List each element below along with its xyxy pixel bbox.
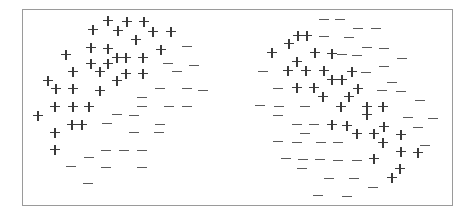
minus-marker-icon [182,42,192,52]
plus-marker-icon [138,53,148,63]
plus-marker-icon [327,75,337,85]
plus-marker-icon [121,53,131,63]
plus-marker-icon [50,128,60,138]
plus-marker-icon [95,86,105,96]
minus-marker-icon [396,87,406,97]
plus-marker-icon [301,66,311,76]
plus-marker-icon [283,66,293,76]
minus-marker-icon [319,32,329,42]
plus-marker-icon [327,49,337,59]
minus-marker-icon [198,86,208,96]
plus-marker-icon [88,25,98,35]
minus-marker-icon [102,119,112,129]
plus-marker-icon [33,111,43,121]
plus-marker-icon [68,102,78,112]
plus-marker-icon [292,83,302,93]
minus-marker-icon [255,101,265,111]
minus-marker-icon [101,163,111,173]
minus-marker-icon [137,163,147,173]
plus-marker-icon [121,69,131,79]
plus-marker-icon [122,17,132,27]
minus-marker-icon [112,110,122,120]
minus-marker-icon [164,102,174,112]
minus-marker-icon [333,156,343,166]
minus-marker-icon [273,137,283,147]
plus-marker-icon [139,17,149,27]
plus-marker-icon [342,121,352,131]
plus-marker-icon [86,43,96,53]
plus-marker-icon [84,102,94,112]
plus-marker-icon [387,173,397,183]
minus-marker-icon [273,111,283,121]
plus-marker-icon [379,122,389,132]
plus-marker-icon [310,48,320,58]
plus-marker-icon [166,27,176,37]
minus-marker-icon [379,62,389,72]
minus-marker-icon [342,192,352,202]
plus-marker-icon [50,102,60,112]
minus-marker-icon [316,138,326,148]
minus-marker-icon [315,155,325,165]
minus-marker-icon [292,138,302,148]
minus-marker-icon [172,67,182,77]
minus-marker-icon [182,84,192,94]
minus-marker-icon [415,96,425,106]
plus-marker-icon [327,120,337,130]
plus-marker-icon [51,84,61,94]
plus-marker-icon [112,76,122,86]
plus-marker-icon [344,92,354,102]
plus-marker-icon [353,84,363,94]
minus-marker-icon [129,111,139,121]
minus-marker-icon [377,86,387,96]
minus-marker-icon [413,123,423,133]
minus-marker-icon [258,67,268,77]
plus-marker-icon [68,84,78,94]
minus-marker-icon [361,68,371,78]
minus-marker-icon [182,102,192,112]
plus-marker-icon [131,35,141,45]
minus-marker-icon [129,128,139,138]
minus-marker-icon [297,164,307,174]
plus-marker-icon [77,120,87,130]
plus-marker-icon [267,48,277,58]
plus-marker-icon [362,110,372,120]
plus-marker-icon [103,16,113,26]
minus-marker-icon [137,146,147,156]
plus-marker-icon [378,102,388,112]
minus-marker-icon [154,128,164,138]
plus-marker-icon [347,67,357,77]
minus-marker-icon [352,51,362,61]
minus-marker-icon [349,174,359,184]
plus-marker-icon [336,102,346,112]
minus-marker-icon [119,146,129,156]
minus-marker-icon [319,15,329,25]
minus-marker-icon [352,156,362,166]
plus-marker-icon [396,147,406,157]
minus-marker-icon [428,114,438,124]
minus-marker-icon [324,174,334,184]
minus-marker-icon [300,102,310,112]
minus-marker-icon [273,84,283,94]
plus-marker-icon [156,45,166,55]
minus-marker-icon [379,44,389,54]
minus-marker-icon [333,138,343,148]
minus-marker-icon [335,15,345,25]
minus-marker-icon [84,153,94,163]
plus-marker-icon [378,138,388,148]
minus-marker-icon [397,54,407,64]
minus-marker-icon [189,61,199,71]
plus-marker-icon [369,154,379,164]
minus-marker-icon [309,120,319,130]
plus-marker-icon [318,92,328,102]
plus-marker-icon [67,120,77,130]
plus-marker-icon [50,145,60,155]
plus-marker-icon [352,129,362,139]
minus-marker-icon [368,183,378,193]
minus-marker-icon [337,50,347,60]
minus-marker-icon [371,24,381,34]
plus-marker-icon [284,39,294,49]
minus-marker-icon [83,179,93,189]
plus-marker-icon [413,148,423,158]
plus-marker-icon [68,67,78,77]
plus-marker-icon [302,31,312,41]
